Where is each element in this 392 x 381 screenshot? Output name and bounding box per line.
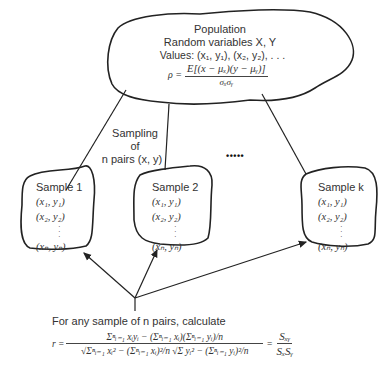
sample-row: (x₂, y₂) xyxy=(152,211,181,222)
sample-title: Sample 2 xyxy=(152,181,198,193)
vertical-ellipsis: ··· xyxy=(152,224,198,239)
sample-title: Sample 1 xyxy=(36,181,82,193)
arrow-to-sample2 xyxy=(135,250,157,298)
sampling-label-line1: Sampling xyxy=(100,128,170,139)
arrow-to-sample1 xyxy=(84,253,135,298)
line-pop-to-sample1 xyxy=(66,90,126,190)
population-variables-text: Random variables X, Y xyxy=(164,36,276,48)
sample-row: (xₙ, yₙ) xyxy=(318,241,348,252)
sample-row: (x₁, y₁) xyxy=(318,196,347,207)
sample-row: (x₁, y₁) xyxy=(152,196,181,207)
sxsy-denominator: SₓSᵧ xyxy=(276,344,293,357)
population-values: Values: (x₁, y₁), (x₂, y₂), . . . xyxy=(125,50,320,61)
rho-label: ρ = xyxy=(168,69,182,80)
r-numerator: Σⁿᵢ₌₁ xᵢyᵢ − (Σⁿᵢ₌₁ xᵢ)(Σⁿᵢ₌₁ yᵢ)/n xyxy=(66,331,263,344)
sample-row: (x₂, y₂) xyxy=(318,211,347,222)
equals-sign: = xyxy=(267,339,272,349)
rho-numerator: E[(x − μₓ)(y − μᵧ)] xyxy=(185,64,268,77)
sample-title: Sample k xyxy=(318,181,364,193)
sample-row: (xₙ, yₙ) xyxy=(36,241,66,252)
r-fraction: Σⁿᵢ₌₁ xᵢyᵢ − (Σⁿᵢ₌₁ xᵢ)(Σⁿᵢ₌₁ yᵢ)/n √Σⁿᵢ… xyxy=(66,331,263,356)
sample-row: (x₁, y₁) xyxy=(36,196,65,207)
s-ratio-fraction: Sₓᵧ SₓSᵧ xyxy=(276,330,293,357)
vertical-ellipsis: ··· xyxy=(318,224,364,239)
sample-row: (xₙ, yₙ) xyxy=(152,241,182,252)
sxy-numerator: Sₓᵧ xyxy=(277,330,292,344)
sampling-label-line3: n pairs (x, y) xyxy=(92,154,172,165)
r-formula: r = Σⁿᵢ₌₁ xᵢyᵢ − (Σⁿᵢ₌₁ xᵢ)(Σⁿᵢ₌₁ yᵢ)/n … xyxy=(52,330,293,357)
rho-formula: ρ = E[(x − μₓ)(y − μᵧ)] σₓσᵧ xyxy=(168,64,268,87)
rho-fraction: E[(x − μₓ)(y − μᵧ)] σₓσᵧ xyxy=(185,64,268,87)
ellipsis-dots: • • • • • xyxy=(226,152,243,161)
r-label: r = xyxy=(52,339,64,349)
sampling-label-line2: of xyxy=(100,141,170,152)
sample-row: (x₂, y₂) xyxy=(36,211,65,222)
r-denominator: √Σⁿᵢ₌₁ xᵢ² − (Σⁿᵢ₌₁ xᵢ)²/n √Σ yᵢ² − (Σⁿᵢ… xyxy=(81,344,248,356)
calculation-caption: For any sample of n pairs, calculate xyxy=(52,316,226,327)
rho-denominator: σₓσᵧ xyxy=(219,77,233,87)
sample-1: Sample 1 (x₁, y₁) (x₂, y₂) ··· (xₙ, yₙ) xyxy=(36,180,82,254)
line-pop-to-samplek xyxy=(262,94,306,174)
population-title: Population xyxy=(170,24,270,35)
population-variables: Random variables X, Y xyxy=(140,37,300,48)
sample-k: Sample k (x₁, y₁) (x₂, y₂) ··· (xₙ, yₙ) xyxy=(318,180,364,254)
sample-2: Sample 2 (x₁, y₁) (x₂, y₂) ··· (xₙ, yₙ) xyxy=(152,180,198,254)
vertical-ellipsis: ··· xyxy=(36,224,82,239)
